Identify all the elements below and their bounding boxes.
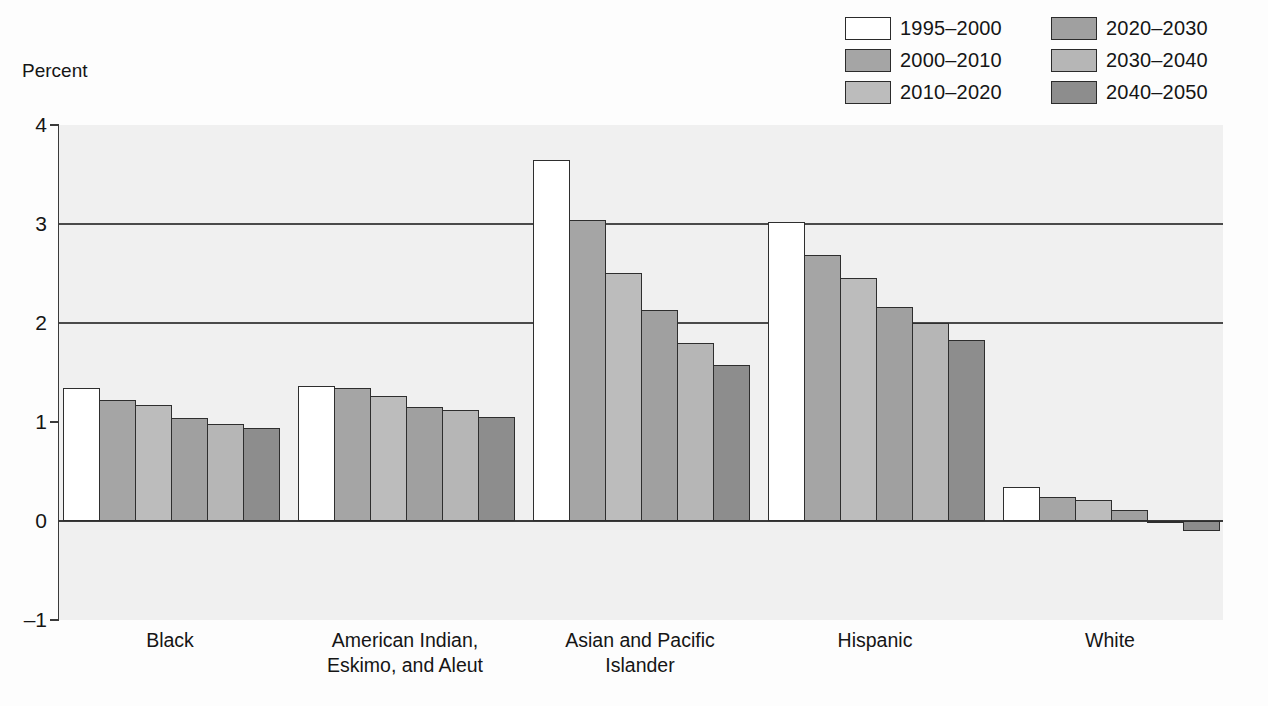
category-label-line: White: [1002, 628, 1218, 653]
legend-label: 2010–2020: [900, 81, 1002, 104]
legend-swatch: [1051, 17, 1097, 40]
y-axis-tick-label: 3: [7, 212, 47, 236]
x-axis-category-label: Black: [62, 628, 278, 653]
legend-swatch: [1051, 81, 1097, 104]
legend-label: 2000–2010: [900, 49, 1002, 72]
plot-wrapper: [58, 125, 1222, 620]
legend-label: 2040–2050: [1106, 81, 1208, 104]
legend-label: 2030–2040: [1106, 49, 1208, 72]
y-axis-title: Percent: [22, 60, 87, 82]
category-label-line: Black: [62, 628, 278, 653]
gridline: [59, 223, 1223, 224]
bar[interactable]: [298, 386, 335, 521]
bar[interactable]: [478, 417, 515, 521]
category-label-line: American Indian,: [297, 628, 513, 653]
y-axis-tick: [50, 619, 59, 620]
category-label-line: Asian and Pacific: [532, 628, 748, 653]
bar[interactable]: [1075, 500, 1112, 521]
legend-entry[interactable]: 2030–2040: [1051, 45, 1241, 75]
legend-swatch: [845, 17, 891, 40]
legend-swatch: [845, 49, 891, 72]
bar[interactable]: [63, 388, 100, 521]
bar[interactable]: [677, 343, 714, 521]
bar[interactable]: [948, 340, 985, 521]
legend-entry[interactable]: 2000–2010: [845, 45, 1035, 75]
x-axis-category-label: Hispanic: [767, 628, 983, 653]
category-label-line: Eskimo, and Aleut: [297, 653, 513, 678]
bar[interactable]: [334, 388, 371, 521]
y-axis-tick-labels: 43210–1: [0, 125, 48, 620]
bar[interactable]: [1183, 521, 1220, 531]
bar[interactable]: [713, 365, 750, 521]
legend-swatch: [845, 81, 891, 104]
plot-area: [58, 125, 1223, 620]
legend-entry[interactable]: 1995–2000: [845, 13, 1035, 43]
bar[interactable]: [912, 323, 949, 521]
legend-entry[interactable]: 2020–2030: [1051, 13, 1241, 43]
bar[interactable]: [406, 407, 443, 521]
x-axis-category-label: American Indian,Eskimo, and Aleut: [297, 628, 513, 678]
bar[interactable]: [243, 428, 280, 521]
chart-page: Percent 1995–20002020–20302000–20102030–…: [0, 0, 1268, 706]
bar[interactable]: [768, 222, 805, 521]
bar[interactable]: [533, 160, 570, 521]
category-label-line: Islander: [532, 653, 748, 678]
x-axis-category-label: White: [1002, 628, 1218, 653]
bar[interactable]: [605, 273, 642, 521]
y-axis-tick-label: 0: [7, 509, 47, 533]
legend-label: 1995–2000: [900, 17, 1002, 40]
bar[interactable]: [876, 307, 913, 521]
bar[interactable]: [171, 418, 208, 521]
bar[interactable]: [804, 255, 841, 521]
bar[interactable]: [1147, 521, 1184, 523]
y-axis-tick-label: 2: [7, 311, 47, 335]
bar[interactable]: [840, 278, 877, 521]
bar[interactable]: [135, 405, 172, 521]
legend-entry[interactable]: 2010–2020: [845, 77, 1035, 107]
y-axis-tick: [50, 421, 59, 422]
bar[interactable]: [370, 396, 407, 521]
y-axis-tick: [50, 124, 59, 125]
legend-label: 2020–2030: [1106, 17, 1208, 40]
category-label-line: Hispanic: [767, 628, 983, 653]
bar[interactable]: [442, 410, 479, 521]
legend-swatch: [1051, 49, 1097, 72]
bar[interactable]: [207, 424, 244, 521]
chart-legend: 1995–20002020–20302000–20102030–20402010…: [845, 12, 1260, 110]
bar[interactable]: [1111, 510, 1148, 521]
bar[interactable]: [569, 220, 606, 521]
x-axis-category-label: Asian and PacificIslander: [532, 628, 748, 678]
y-axis-tick-label: –1: [7, 608, 47, 632]
y-axis-tick-label: 4: [7, 113, 47, 137]
bar[interactable]: [99, 400, 136, 521]
bar[interactable]: [1003, 487, 1040, 521]
bar[interactable]: [641, 310, 678, 521]
bar[interactable]: [1039, 497, 1076, 521]
legend-entry[interactable]: 2040–2050: [1051, 77, 1241, 107]
y-axis-tick-label: 1: [7, 410, 47, 434]
